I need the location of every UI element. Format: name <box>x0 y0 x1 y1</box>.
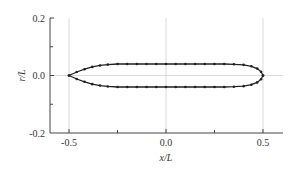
data-point-marker <box>256 67 259 70</box>
data-point-marker <box>155 63 158 66</box>
data-point-marker <box>242 64 245 67</box>
data-point-marker <box>126 86 129 89</box>
x-tick-0.0: 0.0 <box>160 137 173 148</box>
data-point-marker <box>107 85 110 88</box>
data-point-marker <box>145 86 148 89</box>
data-point-marker <box>116 63 119 66</box>
x-tick-neg0.5: -0.5 <box>61 137 77 148</box>
data-point-marker <box>99 64 102 67</box>
data-point-marker <box>91 83 94 86</box>
y-axis-label: r/L <box>16 69 27 82</box>
data-point-marker <box>116 86 119 89</box>
data-point-marker <box>75 78 78 81</box>
data-point-marker <box>242 85 245 88</box>
data-point-marker <box>250 65 253 68</box>
grid <box>50 18 283 133</box>
data-point-marker <box>184 63 187 66</box>
data-point-marker <box>256 81 259 84</box>
data-point-marker <box>75 71 78 74</box>
data-point-marker <box>213 63 216 66</box>
data-point-marker <box>233 85 236 88</box>
data-point-marker <box>262 74 265 77</box>
data-point-marker <box>194 86 197 89</box>
data-point-marker <box>91 66 94 69</box>
data-point-marker <box>165 63 168 66</box>
x-tick-0.5: 0.5 <box>257 137 270 148</box>
x-axis-label: x/L <box>159 152 173 163</box>
data-point-marker <box>68 74 71 77</box>
y-tick-0.2: 0.2 <box>33 13 46 24</box>
data-point-marker <box>145 63 148 66</box>
data-point-marker <box>83 81 86 84</box>
data-point-marker <box>165 86 168 89</box>
y-tick-0.0: 0.0 <box>33 70 46 81</box>
data-point-marker <box>204 63 207 66</box>
data-point-marker <box>107 63 110 66</box>
data-point-marker <box>233 63 236 66</box>
data-point-marker <box>213 86 216 89</box>
y-tick-neg0.2: -0.2 <box>29 128 45 139</box>
data-point-marker <box>260 78 263 81</box>
data-point-marker <box>204 86 207 89</box>
data-point-marker <box>155 86 158 89</box>
data-point-marker <box>174 86 177 89</box>
data-point-marker <box>223 63 226 66</box>
data-point-marker <box>194 63 197 66</box>
data-point-marker <box>83 68 86 71</box>
data-point-marker <box>260 70 263 73</box>
data-point-marker <box>223 86 226 89</box>
data-point-marker <box>136 86 139 89</box>
data-point-marker <box>250 83 253 86</box>
data-point-marker <box>136 63 139 66</box>
data-point-marker <box>99 84 102 87</box>
chart: 0.2 0.0 -0.2 -0.5 0.0 0.5 x/L r/L <box>0 0 295 176</box>
data-point-marker <box>126 63 129 66</box>
data-point-marker <box>174 63 177 66</box>
data-point-marker <box>184 86 187 89</box>
